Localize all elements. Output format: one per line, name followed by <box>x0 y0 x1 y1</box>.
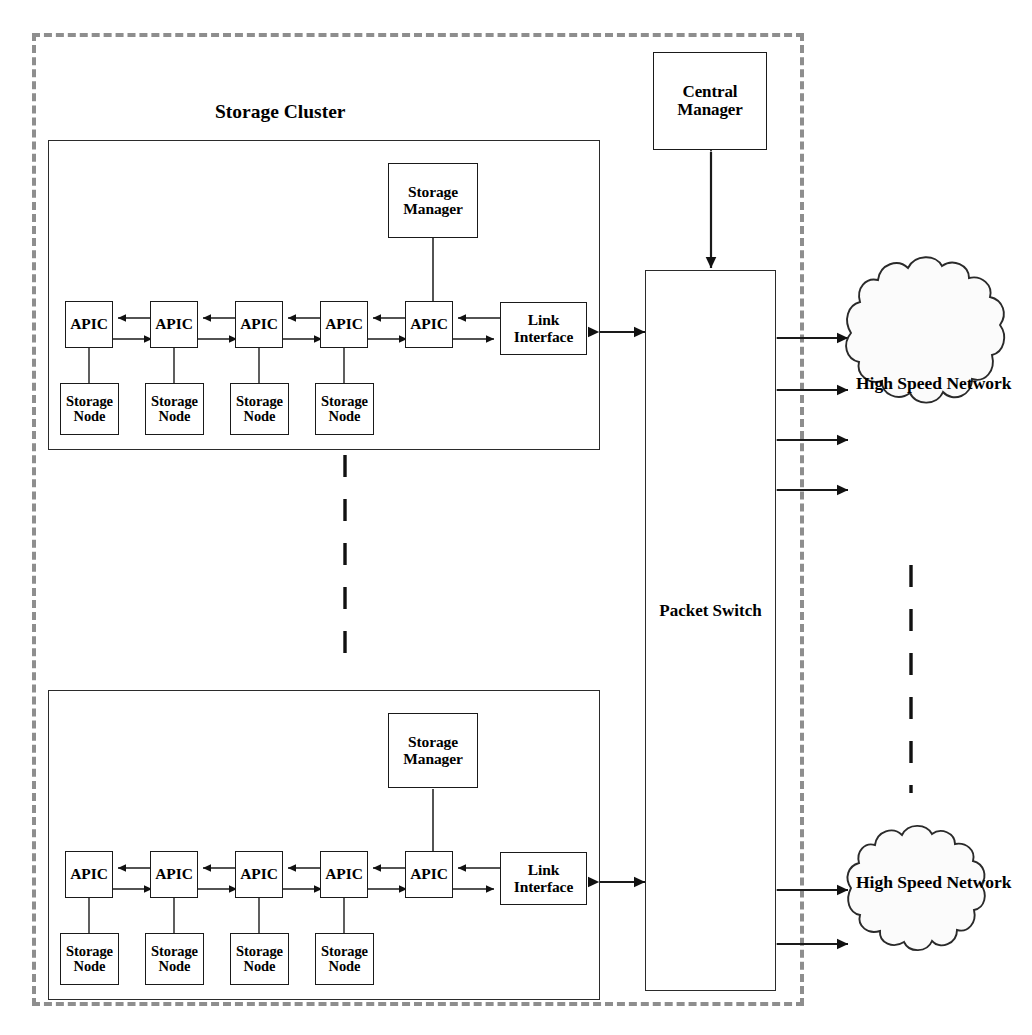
storage-node-bottom-4[interactable]: Storage Node <box>315 933 374 985</box>
link-interface-label-line2: Interface <box>514 329 573 345</box>
apic-top-1[interactable]: APIC <box>65 301 113 348</box>
storage-node-label-line2: Node <box>321 959 368 974</box>
storage-node-top-4[interactable]: Storage Node <box>315 383 374 435</box>
packet-switch-box[interactable] <box>645 270 776 991</box>
storage-node-label-line1: Storage <box>321 944 368 959</box>
storage-node-label-line1: Storage <box>321 394 368 409</box>
storage-manager-bottom-box[interactable]: Storage Manager <box>388 713 478 788</box>
apic-label: APIC <box>410 866 448 882</box>
storage-node-label-line2: Node <box>236 409 283 424</box>
apic-top-4[interactable]: APIC <box>320 301 368 348</box>
link-interface-label-line2: Interface <box>514 879 573 895</box>
storage-node-label-line1: Storage <box>66 944 113 959</box>
link-interface-label-line1: Link <box>514 862 573 878</box>
storage-manager-label-line2: Manager <box>403 201 463 217</box>
network-label-line1: High Speed <box>856 872 942 892</box>
storage-node-label-line2: Node <box>66 409 113 424</box>
storage-manager-label-line2: Manager <box>403 751 463 767</box>
link-interface-bottom-box[interactable]: Link Interface <box>500 852 587 905</box>
storage-node-label-line1: Storage <box>151 394 198 409</box>
apic-label: APIC <box>155 866 193 882</box>
apic-bottom-3[interactable]: APIC <box>235 851 283 898</box>
packet-switch-label-line2: Switch <box>713 601 762 620</box>
apic-top-2[interactable]: APIC <box>150 301 198 348</box>
apic-bottom-1[interactable]: APIC <box>65 851 113 898</box>
packet-switch-label: Packet Switch <box>645 598 776 624</box>
apic-label: APIC <box>155 316 193 332</box>
storage-node-label-line2: Node <box>236 959 283 974</box>
storage-node-label-line2: Node <box>151 959 198 974</box>
storage-node-bottom-1[interactable]: Storage Node <box>60 933 119 985</box>
storage-node-label-line1: Storage <box>236 394 283 409</box>
central-manager-label-line2: Manager <box>677 101 742 119</box>
storage-manager-top-box[interactable]: Storage Manager <box>388 163 478 238</box>
network-label-line2: Network <box>946 872 1011 892</box>
high-speed-network-top-label: High Speed Network <box>856 370 996 397</box>
storage-node-bottom-2[interactable]: Storage Node <box>145 933 204 985</box>
apic-bottom-2[interactable]: APIC <box>150 851 198 898</box>
storage-cluster-title: Storage Cluster <box>215 101 346 123</box>
storage-node-label-line2: Node <box>66 959 113 974</box>
apic-label: APIC <box>240 866 278 882</box>
storage-node-label-line1: Storage <box>66 394 113 409</box>
link-interface-label-line1: Link <box>514 312 573 328</box>
storage-node-top-2[interactable]: Storage Node <box>145 383 204 435</box>
central-manager-box[interactable]: Central Manager <box>653 52 767 150</box>
apic-bottom-4[interactable]: APIC <box>320 851 368 898</box>
apic-label: APIC <box>70 866 108 882</box>
network-label-line2: Network <box>946 373 1011 393</box>
apic-bottom-5[interactable]: APIC <box>405 851 453 898</box>
storage-node-bottom-3[interactable]: Storage Node <box>230 933 289 985</box>
storage-node-top-1[interactable]: Storage Node <box>60 383 119 435</box>
apic-label: APIC <box>410 316 448 332</box>
apic-label: APIC <box>70 316 108 332</box>
packet-switch-label-line1: Packet <box>659 601 708 620</box>
storage-node-label-line2: Node <box>321 409 368 424</box>
storage-manager-label-line1: Storage <box>403 734 463 750</box>
storage-node-top-3[interactable]: Storage Node <box>230 383 289 435</box>
storage-node-label-line1: Storage <box>151 944 198 959</box>
diagram-canvas: Storage Cluster Central Manager Packet S… <box>0 0 1032 1035</box>
apic-label: APIC <box>325 316 363 332</box>
storage-node-label-line1: Storage <box>236 944 283 959</box>
network-label-line1: High Speed <box>856 373 942 393</box>
link-interface-top-box[interactable]: Link Interface <box>500 302 587 355</box>
apic-label: APIC <box>325 866 363 882</box>
storage-manager-label-line1: Storage <box>403 184 463 200</box>
central-manager-label-line1: Central <box>677 83 742 101</box>
apic-label: APIC <box>240 316 278 332</box>
storage-node-label-line2: Node <box>151 409 198 424</box>
apic-top-5[interactable]: APIC <box>405 301 453 348</box>
apic-top-3[interactable]: APIC <box>235 301 283 348</box>
high-speed-network-bottom-label: High Speed Network <box>856 869 996 896</box>
